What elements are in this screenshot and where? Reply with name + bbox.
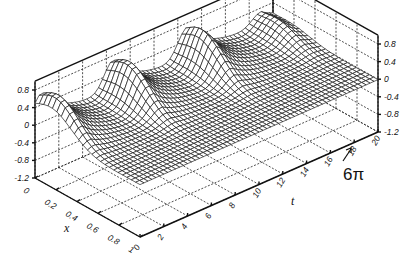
x-tick: 0.6 (85, 220, 100, 235)
z-tick-right: -1.2 (384, 127, 399, 137)
t-tick: 6 (202, 211, 213, 220)
t-tick: 4 (179, 222, 190, 231)
z-tick-left: 0.4 (17, 103, 29, 113)
t-tick: 2 (154, 232, 166, 242)
surface-plot: 0.80.40-0.4-0.8-1.20.80.40-0.4-0.8-1.200… (0, 0, 406, 267)
annotation-label: 6π (343, 165, 364, 184)
t-tick: 8 (226, 201, 237, 210)
t-axis-title: t (291, 194, 295, 208)
z-tick-left: 0 (24, 120, 29, 130)
z-tick-right: 0.4 (384, 57, 396, 67)
z-tick-left: -1.2 (14, 173, 29, 183)
z-tick-left: -0.4 (14, 138, 29, 148)
z-tick-right: -0.4 (384, 92, 399, 102)
x-tick: 0 (22, 185, 31, 196)
z-tick-left: 0.8 (17, 85, 29, 95)
z-tick-right: 0.8 (384, 39, 396, 49)
z-tick-right: -0.8 (384, 109, 399, 119)
x-axis-title: x (63, 221, 70, 235)
x-tick: 0.8 (106, 232, 121, 247)
z-tick-right: 0 (384, 74, 389, 84)
z-tick-left: -0.8 (14, 155, 29, 165)
x-tick: 0.2 (43, 197, 58, 212)
